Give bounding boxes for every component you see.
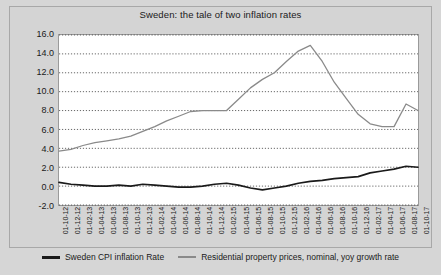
chart-container: Sweden: the tale of two inflation rates … [0,0,441,275]
y-axis-tick: 0.0 [0,182,54,192]
x-axis-tick: 01-12-15 [291,207,298,234]
chart-legend: Sweden CPI inflation RateResidential pro… [0,252,441,262]
series-lines [59,35,418,205]
legend-item[interactable]: Residential property prices, nominal, yo… [178,252,399,262]
y-axis-tick: 10.0 [0,86,54,96]
x-axis-tick: 01-10-12 [62,207,69,234]
x-axis-tick: 01-10-15 [279,207,286,234]
y-axis-tick: 6.0 [0,125,54,135]
y-axis-tick: 16.0 [0,29,54,39]
x-axis-tick: 01-12-16 [363,207,370,234]
legend-item[interactable]: Sweden CPI inflation Rate [42,252,164,262]
x-axis-tick: 01-06-15 [255,207,262,234]
x-axis-tick: 01-06-17 [399,207,406,234]
x-axis-tick: 01-06-14 [182,207,189,234]
x-axis-tick: 01-02-17 [375,207,382,234]
y-axis-tick: 8.0 [0,105,54,115]
y-axis-tick: 2.0 [0,163,54,173]
x-axis-tick: 01-04-14 [170,207,177,234]
x-axis-tick: 01-04-16 [315,207,322,234]
x-axis-tick: 01-06-13 [110,207,117,234]
series-line [59,45,418,151]
y-axis-labels: 16.014.012.010.08.06.04.02.00.0-2.0 [0,34,54,206]
x-axis-tick: 01-04-17 [387,207,394,234]
x-axis-tick: 01-12-13 [146,207,153,234]
legend-swatch-icon [42,256,60,259]
x-axis-tick: 01-08-16 [339,207,346,234]
x-axis-tick: 01-02-13 [86,207,93,234]
y-axis-tick: 4.0 [0,144,54,154]
x-axis-tick: 01-12-12 [74,207,81,234]
x-axis-tick: 01-06-16 [327,207,334,234]
x-axis-tick: 01-10-17 [423,207,430,234]
x-axis-tick: 01-04-13 [98,207,105,234]
x-axis-tick: 01-08-13 [122,207,129,234]
chart-title: Sweden: the tale of two inflation rates [9,9,432,20]
x-axis-tick: 01-10-13 [134,207,141,234]
x-axis-tick: 01-02-15 [230,207,237,234]
x-axis-tick: 01-10-16 [351,207,358,234]
legend-swatch-icon [178,256,196,258]
y-axis-tick: -2.0 [0,201,54,211]
x-axis-tick: 01-10-14 [206,207,213,234]
x-axis-tick: 01-04-15 [243,207,250,234]
y-axis-tick: 14.0 [0,48,54,58]
x-axis-tick: 01-02-16 [303,207,310,234]
x-axis-tick: 01-08-15 [267,207,274,234]
plot-inner [59,35,418,205]
plot-area [58,34,419,206]
x-axis-tick: 01-08-17 [411,207,418,234]
x-axis-labels: 01-10-1201-12-1201-02-1301-04-1301-06-13… [58,207,419,249]
x-axis-tick: 01-08-14 [194,207,201,234]
legend-label: Residential property prices, nominal, yo… [201,252,399,262]
x-axis-tick: 01-12-14 [218,207,225,234]
y-axis-tick: 12.0 [0,67,54,77]
legend-label: Sweden CPI inflation Rate [65,252,164,262]
x-axis-tick: 01-02-14 [158,207,165,234]
